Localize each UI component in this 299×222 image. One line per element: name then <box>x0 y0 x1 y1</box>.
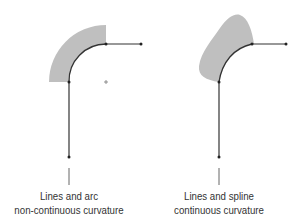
arc-curvature-comb <box>49 25 106 82</box>
right-caption: Lines and spline continuous curvature <box>160 189 278 217</box>
right-caption-subtitle: continuous curvature <box>160 203 278 217</box>
left-caption: Lines and arc non-continuous curvature <box>8 189 129 217</box>
endpoint-dot <box>140 43 143 46</box>
endpoint-dot <box>218 81 221 84</box>
lines-and-spline-figure <box>199 15 288 185</box>
left-caption-title: Lines and arc <box>8 189 129 203</box>
spline-curvature-comb <box>199 15 254 82</box>
arc-center-marker-icon <box>104 80 108 84</box>
endpoint-dot <box>68 156 71 159</box>
endpoint-dot <box>68 81 71 84</box>
endpoint-dot <box>218 156 221 159</box>
left-caption-subtitle: non-continuous curvature <box>8 203 129 217</box>
right-caption-title: Lines and spline <box>160 189 278 203</box>
endpoint-dot <box>285 43 288 46</box>
lines-and-arc-figure <box>49 25 143 185</box>
endpoint-dot <box>251 43 254 46</box>
endpoint-dot <box>105 43 108 46</box>
